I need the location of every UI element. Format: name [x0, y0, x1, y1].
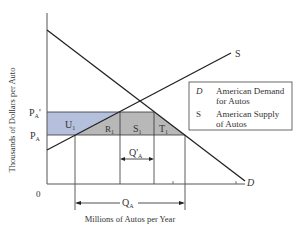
qa-prime-arrowhead-left	[120, 157, 125, 161]
legend-text-s-1: American Supply	[216, 109, 280, 119]
legend-text-s-2: of Autos	[216, 119, 247, 129]
pa-label: PA	[30, 130, 41, 142]
y-axis-title: Thousands of Dollars per Auto	[7, 68, 17, 173]
qa-prime-arrowhead-right	[149, 157, 154, 161]
origin-label: 0	[36, 189, 41, 199]
legend: D American Demand for Autos S American S…	[189, 82, 292, 130]
qa-arrowhead-right	[179, 201, 185, 205]
legend-key-d: D	[195, 86, 203, 96]
x-axis-title: Millions of Autos per Year	[85, 214, 176, 224]
supply-demand-chart: S D PA' PA U1 R1 S1 T1 Q'A QA 0 Millions…	[0, 0, 305, 232]
legend-text-d-2: for Autos	[216, 96, 250, 106]
supply-label: S	[235, 48, 241, 59]
legend-text-d-1: American Demand	[216, 86, 285, 96]
demand-label: D	[246, 177, 255, 188]
pa-prime-label: PA'	[29, 107, 41, 119]
legend-key-s: S	[196, 109, 201, 119]
qa-arrowhead-left	[75, 201, 81, 205]
